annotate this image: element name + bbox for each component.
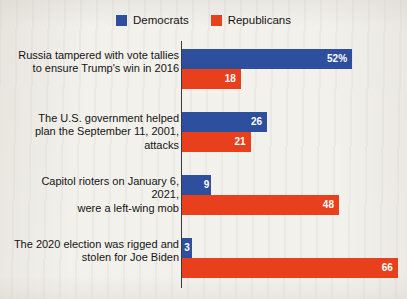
bar-republicans[interactable]: 21 bbox=[182, 132, 251, 152]
bar-republicans[interactable]: 66 bbox=[182, 258, 398, 278]
category-label-line: Capitol rioters on January 6, 2021, bbox=[11, 175, 179, 202]
category-label-line: to ensure Trump's win in 2016 bbox=[11, 62, 179, 75]
bar-value-label: 66 bbox=[382, 263, 398, 273]
plot-area: Russia tampered with vote tallies to ens… bbox=[0, 41, 407, 293]
bar-value-label: 18 bbox=[225, 74, 241, 84]
bar-republicans[interactable]: 48 bbox=[182, 195, 339, 215]
bar-value-label: 9 bbox=[204, 180, 212, 190]
bar-pair: 3 66 bbox=[182, 238, 398, 278]
bar-value-label: 3 bbox=[184, 243, 192, 253]
bar-pair: 52% 18 bbox=[182, 49, 352, 89]
category-label: Capitol rioters on January 6, 2021, were… bbox=[11, 175, 179, 215]
legend-item-democrats: Democrats bbox=[116, 15, 189, 27]
category-label-line: Russia tampered with vote tallies bbox=[11, 49, 179, 62]
bar-pair: 9 48 bbox=[182, 175, 339, 215]
bar-group: Russia tampered with vote tallies to ens… bbox=[0, 49, 407, 90]
bar-value-label: 48 bbox=[323, 200, 339, 210]
category-label: The 2020 election was rigged and stolen … bbox=[11, 238, 179, 265]
category-label-line: The U.S. government helped bbox=[11, 112, 179, 125]
bar-value-label: 21 bbox=[235, 137, 251, 147]
bar-democrats[interactable]: 3 bbox=[182, 238, 192, 258]
democrats-swatch-icon bbox=[116, 15, 127, 26]
bar-pair: 26 21 bbox=[182, 112, 267, 152]
category-label-line: plan the September 11, 2001, attacks bbox=[11, 125, 179, 152]
bar-value-label: 52% bbox=[327, 54, 352, 64]
category-label-line: stolen for Joe Biden bbox=[11, 251, 179, 264]
bar-value-label: 26 bbox=[251, 117, 267, 127]
category-label: The U.S. government helped plan the Sept… bbox=[11, 112, 179, 152]
bar-republicans[interactable]: 18 bbox=[182, 69, 241, 89]
bar-democrats[interactable]: 9 bbox=[182, 175, 211, 195]
bar-democrats[interactable]: 26 bbox=[182, 112, 267, 132]
category-label-line: were a left-wing mob bbox=[11, 202, 179, 215]
bar-group: Capitol rioters on January 6, 2021, were… bbox=[0, 175, 407, 216]
legend-item-republicans: Republicans bbox=[211, 15, 291, 27]
category-label-line: The 2020 election was rigged and bbox=[11, 238, 179, 251]
legend-label-republicans: Republicans bbox=[228, 15, 291, 27]
republicans-swatch-icon bbox=[211, 15, 222, 26]
chart-legend: Democrats Republicans bbox=[0, 15, 407, 27]
bar-democrats[interactable]: 52% bbox=[182, 49, 352, 69]
legend-label-democrats: Democrats bbox=[133, 15, 189, 27]
bar-group: The 2020 election was rigged and stolen … bbox=[0, 238, 407, 279]
category-label: Russia tampered with vote tallies to ens… bbox=[11, 49, 179, 76]
grouped-bar-chart: Democrats Republicans Russia tampered wi… bbox=[0, 0, 407, 299]
bar-group: The U.S. government helped plan the Sept… bbox=[0, 112, 407, 153]
